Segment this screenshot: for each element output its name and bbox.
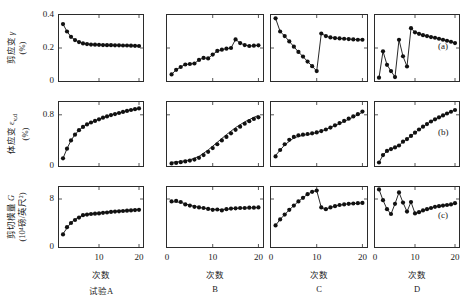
data-point (409, 200, 413, 204)
data-point (310, 64, 314, 68)
data-point (137, 208, 141, 212)
figure-root: 00.20.400.8081020010200102001020剪应变 γ(%)… (0, 0, 466, 296)
data-point (73, 218, 77, 222)
data-markers (169, 115, 260, 165)
data-point (421, 208, 425, 212)
data-point (224, 207, 228, 211)
data-point (113, 43, 117, 47)
data-point (97, 43, 101, 47)
data-point (342, 119, 346, 123)
plot-area-a-B (167, 15, 263, 81)
data-point (105, 210, 109, 214)
x-axis-title-A: 次数 (61, 268, 141, 280)
data-point (183, 159, 187, 163)
data-point (65, 147, 69, 151)
data-point (292, 135, 296, 139)
data-point (215, 142, 219, 146)
tick-marks (167, 102, 263, 166)
data-point (417, 32, 421, 36)
panel-b-C (270, 101, 368, 167)
data-point (105, 114, 109, 118)
data-point (201, 153, 205, 157)
data-point (179, 160, 183, 164)
data-point (233, 128, 237, 132)
data-point (425, 34, 429, 38)
data-markers (273, 189, 364, 228)
data-point (296, 50, 300, 54)
data-point (356, 38, 360, 42)
tick-marks (59, 187, 143, 247)
data-point (273, 154, 277, 158)
data-point (65, 29, 69, 33)
data-point (409, 26, 413, 30)
data-point (401, 201, 405, 205)
x-axis-title-D: 次数 (377, 268, 457, 280)
data-point (129, 44, 133, 48)
data-point (385, 63, 389, 67)
data-point (117, 43, 121, 47)
data-point (296, 199, 300, 203)
data-point (351, 37, 355, 41)
xtick-label-A-20: 20 (125, 252, 153, 262)
data-markers (169, 199, 260, 213)
data-point (393, 75, 397, 79)
data-point (85, 122, 89, 126)
data-point (287, 208, 291, 212)
data-point (129, 208, 133, 212)
data-point (211, 208, 215, 212)
data-point (81, 41, 85, 45)
data-point (278, 148, 282, 152)
column-caption-B: B (175, 284, 255, 294)
data-point (360, 110, 364, 114)
data-point (117, 209, 121, 213)
data-point (121, 209, 125, 213)
data-point (337, 36, 341, 40)
data-point (385, 149, 389, 153)
data-point (69, 35, 73, 39)
data-point (183, 62, 187, 66)
xtick-label-B-0: 0 (153, 252, 181, 262)
data-point (224, 135, 228, 139)
data-point (117, 111, 121, 115)
data-point (417, 210, 421, 214)
tick-marks (167, 187, 263, 247)
xtick-label-D-20: 20 (441, 252, 466, 262)
data-point (243, 206, 247, 210)
data-point (101, 211, 105, 215)
data-point (389, 212, 393, 216)
data-point (65, 225, 69, 229)
data-point (319, 205, 323, 209)
data-point (389, 147, 393, 151)
data-markers (61, 106, 141, 160)
data-point (333, 36, 337, 40)
data-point (113, 112, 117, 116)
row-caption-b: (b) (438, 127, 464, 137)
data-point (283, 213, 287, 217)
data-point (211, 146, 215, 150)
data-point (247, 44, 251, 48)
data-point (247, 206, 251, 210)
data-point (377, 160, 381, 164)
panel-a-B (166, 14, 264, 82)
data-point (233, 37, 237, 41)
data-point (252, 117, 256, 121)
data-point (409, 134, 413, 138)
data-point (61, 22, 65, 26)
data-point (287, 39, 291, 43)
data-point (137, 44, 141, 48)
data-point (305, 59, 309, 63)
data-point (179, 65, 183, 69)
data-point (377, 187, 381, 191)
data-point (220, 48, 224, 52)
data-point (220, 138, 224, 142)
data-point (401, 54, 405, 58)
data-point (233, 206, 237, 210)
data-point (351, 114, 355, 118)
data-point (328, 126, 332, 130)
data-point (61, 156, 65, 160)
panel-c-B (166, 186, 264, 248)
xtick-label-D-10: 10 (401, 252, 429, 262)
data-point (77, 216, 81, 220)
data-point (206, 56, 210, 60)
data-point (121, 43, 125, 47)
